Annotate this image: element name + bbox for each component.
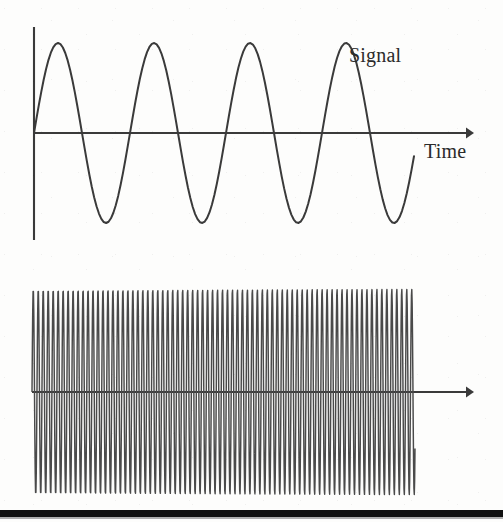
signal-series-label: Signal xyxy=(349,44,401,67)
carrier-time-axis-arrowhead xyxy=(466,387,474,398)
carrier-panel: Carrier Time xyxy=(0,261,503,501)
signal-time-axis-arrowhead xyxy=(466,128,474,139)
signal-time-axis-label: Time xyxy=(424,140,466,163)
figure-root: Signal Time Carrier Time xyxy=(0,0,503,522)
carrier-waveform-plot xyxy=(0,261,503,501)
page-edge-shadow xyxy=(0,517,503,519)
page-edge-bar xyxy=(0,510,503,517)
signal-waveform-plot xyxy=(0,0,503,261)
signal-axes xyxy=(34,27,474,240)
signal-panel: Signal Time xyxy=(0,0,503,261)
carrier-sine-curve xyxy=(32,289,415,494)
